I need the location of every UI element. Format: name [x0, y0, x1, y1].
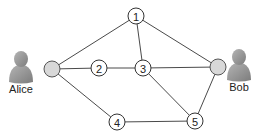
person-bob: Bob	[210, 49, 251, 93]
edge-alice-4	[52, 69, 117, 122]
node-label: 1	[133, 11, 139, 23]
edge-3-5	[143, 68, 195, 121]
edge-1-bob	[136, 16, 218, 67]
node-label: 3	[140, 63, 146, 75]
person-alice: Alice	[9, 51, 60, 95]
person-icon	[227, 49, 251, 82]
node-1: 1	[128, 8, 144, 24]
edge-4-5	[117, 121, 195, 122]
network-diagram: Alice Bob 1 2 3 4 5	[0, 0, 264, 138]
node-label: 4	[114, 117, 120, 129]
node-4: 4	[109, 114, 125, 130]
person-name-bob: Bob	[229, 81, 249, 93]
node-5: 5	[187, 113, 203, 129]
edge-5-bob	[195, 67, 218, 121]
node-label: 2	[96, 63, 102, 75]
node-3: 3	[135, 60, 151, 76]
person-icon	[9, 51, 33, 84]
endpoint-bob	[210, 59, 226, 75]
node-2: 2	[91, 60, 107, 76]
edge-alice-1	[52, 16, 136, 69]
node-label: 5	[192, 116, 198, 128]
edge-3-bob	[143, 67, 218, 68]
endpoint-alice	[44, 61, 60, 77]
person-name-alice: Alice	[9, 83, 33, 95]
